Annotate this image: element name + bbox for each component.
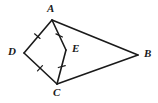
segment-CB	[57, 55, 138, 84]
geometry-figure: ABCDE	[0, 0, 158, 103]
vertex-label-E: E	[72, 43, 79, 54]
segment-AB	[52, 20, 138, 55]
vertex-label-D: D	[8, 46, 16, 57]
vertex-label-C: C	[53, 87, 60, 98]
vertex-label-B: B	[144, 48, 151, 59]
segments-group	[24, 20, 138, 84]
vertex-label-A: A	[47, 3, 54, 14]
